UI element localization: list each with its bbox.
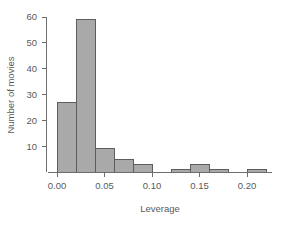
- histogram-bar: [247, 169, 266, 172]
- y-tick-label: 10: [26, 141, 37, 152]
- histogram-bar: [57, 102, 76, 172]
- histogram-bar: [114, 159, 133, 172]
- x-tick-label: 0.15: [190, 180, 209, 191]
- histogram-bar: [133, 164, 152, 172]
- x-tick-label: 0.05: [95, 180, 114, 191]
- y-tick-label: 30: [26, 89, 37, 100]
- histogram-bar: [171, 169, 190, 172]
- leverage-histogram-chart: 0.000.050.100.150.20 102030405060 Levera…: [0, 0, 289, 232]
- x-tick-label: 0.00: [48, 180, 67, 191]
- y-tick-label: 40: [26, 63, 37, 74]
- x-tick-label: 0.10: [143, 180, 162, 191]
- histogram-bar: [209, 169, 228, 172]
- histogram-figure: 0.000.050.100.150.20 102030405060 Levera…: [0, 0, 289, 232]
- y-tick-label: 20: [26, 115, 37, 126]
- x-axis-title: Leverage: [140, 203, 180, 214]
- histogram-bar: [190, 164, 209, 172]
- y-tick-label: 60: [26, 11, 37, 22]
- chart-background: [0, 0, 289, 232]
- y-tick-label: 50: [26, 37, 37, 48]
- y-axis-title: Number of movies: [5, 56, 16, 133]
- histogram-bar: [76, 20, 95, 172]
- histogram-bar: [95, 149, 114, 172]
- x-tick-label: 0.20: [238, 180, 257, 191]
